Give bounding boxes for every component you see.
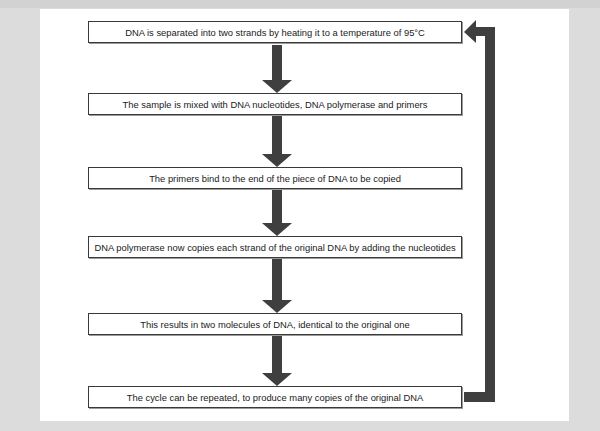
step-box-1: DNA is separated into two strands by hea… [88, 21, 462, 43]
step-box-2: The sample is mixed with DNA nucleotides… [88, 93, 462, 115]
down-arrow-icon [262, 336, 292, 386]
step-text: The sample is mixed with DNA nucleotides… [123, 99, 428, 110]
step-text: This results in two molecules of DNA, id… [140, 319, 409, 330]
step-text: DNA polymerase now copies each strand of… [94, 242, 455, 253]
step-text: DNA is separated into two strands by hea… [125, 27, 425, 38]
loop-back-arrow-icon [464, 20, 495, 402]
down-arrow-icon [262, 116, 292, 167]
arrows-layer [0, 0, 600, 431]
step-text: The cycle can be repeated, to produce ma… [127, 392, 424, 403]
step-text: The primers bind to the end of the piece… [149, 173, 401, 184]
down-arrow-icon [262, 45, 292, 93]
step-box-5: This results in two molecules of DNA, id… [88, 313, 462, 335]
down-arrow-icon [262, 190, 292, 236]
step-box-3: The primers bind to the end of the piece… [88, 167, 462, 189]
step-box-6: The cycle can be repeated, to produce ma… [88, 386, 462, 408]
step-box-4: DNA polymerase now copies each strand of… [88, 236, 462, 258]
down-arrow-icon [262, 259, 292, 313]
